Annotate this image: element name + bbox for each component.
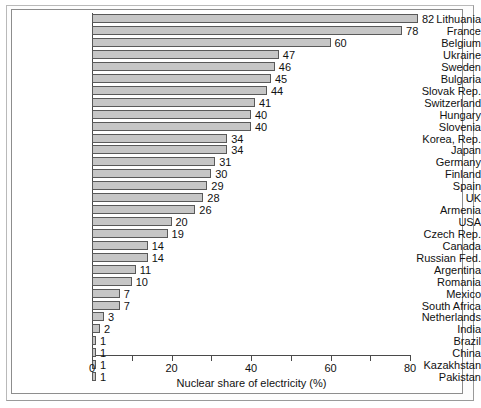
bar-row: Slovak Rep.44	[0, 85, 481, 97]
bar-row: South Africa7	[0, 300, 481, 312]
bar-row: Belgium60	[0, 37, 481, 49]
category-label: Switzerland	[393, 97, 481, 109]
bar-value-label: 40	[255, 109, 267, 121]
bar-row: India2	[0, 323, 481, 335]
x-axis-title: Nuclear share of electricity (%)	[92, 377, 411, 389]
bar	[92, 217, 172, 226]
bar	[92, 265, 136, 274]
bar	[92, 289, 120, 298]
bar-value-label: 46	[279, 61, 291, 73]
bar-value-label: 82	[422, 13, 434, 25]
x-tick-label: 60	[324, 362, 336, 374]
bar	[92, 169, 211, 178]
bar-row: UK28	[0, 192, 481, 204]
bar-row: France78	[0, 25, 481, 37]
x-tick	[410, 356, 411, 361]
category-label: UK	[393, 192, 481, 204]
bar-row: Ukraine47	[0, 49, 481, 61]
bar-row: Switzerland41	[0, 97, 481, 109]
bar	[92, 324, 100, 333]
bar	[92, 14, 418, 23]
bar	[92, 122, 251, 131]
category-label: Netherlands	[393, 311, 481, 323]
x-tick	[291, 356, 292, 361]
bar-row: Russian Fed.14	[0, 252, 481, 264]
bar-value-label: 14	[152, 252, 164, 264]
bar-row: Romania10	[0, 276, 481, 288]
bar-value-label: 45	[275, 73, 287, 85]
category-label: Ukraine	[393, 49, 481, 61]
bar-value-label: 1	[100, 335, 106, 347]
bar-row: Mexico7	[0, 288, 481, 300]
bar	[92, 205, 195, 214]
bar	[92, 98, 255, 107]
bar-row: Bulgaria45	[0, 73, 481, 85]
bar	[92, 110, 251, 119]
bar	[92, 312, 104, 321]
bar-row: Brazil1	[0, 335, 481, 347]
bar-value-label: 20	[176, 216, 188, 228]
bar	[92, 193, 203, 202]
category-label: USA	[393, 216, 481, 228]
bar-row: Czech Rep.19	[0, 228, 481, 240]
category-label: India	[393, 323, 481, 335]
bar-value-label: 7	[124, 300, 130, 312]
bar-row: Netherlands3	[0, 311, 481, 323]
x-tick	[92, 356, 93, 361]
bar-row: Armenia26	[0, 204, 481, 216]
bar	[92, 86, 267, 95]
bar-value-label: 1	[100, 347, 106, 359]
bar	[92, 336, 96, 345]
x-tick	[132, 356, 133, 361]
category-label: Brazil	[393, 335, 481, 347]
bar-value-label: 30	[215, 168, 227, 180]
bar-row: Canada14	[0, 240, 481, 252]
bar-row: China1	[0, 347, 481, 359]
category-label: South Africa	[393, 300, 481, 312]
bar-value-label: 1	[100, 359, 106, 371]
bar-value-label: 41	[259, 97, 271, 109]
bar-row: Hungary40	[0, 109, 481, 121]
x-tick	[331, 356, 332, 361]
bar-row: Germany31	[0, 156, 481, 168]
bar-row: Korea, Rep.34	[0, 133, 481, 145]
category-label: Russian Fed.	[393, 252, 481, 264]
bar	[92, 145, 227, 154]
category-label: Belgium	[393, 37, 481, 49]
category-label: China	[393, 347, 481, 359]
bar-row: Spain29	[0, 180, 481, 192]
bar-value-label: 3	[108, 311, 114, 323]
bar-row: Sweden46	[0, 61, 481, 73]
bar	[92, 50, 279, 59]
category-label: Japan	[393, 144, 481, 156]
bar	[92, 62, 275, 71]
bar-value-label: 78	[406, 25, 418, 37]
category-label: Finland	[393, 168, 481, 180]
bar-row: USA20	[0, 216, 481, 228]
category-label: Hungary	[393, 109, 481, 121]
bar-row: Finland30	[0, 168, 481, 180]
bar-value-label: 29	[211, 180, 223, 192]
x-tick	[211, 356, 212, 361]
bar	[92, 38, 331, 47]
bar-value-label: 14	[152, 240, 164, 252]
bar	[92, 134, 227, 143]
bar-value-label: 31	[219, 156, 231, 168]
category-label: Romania	[393, 276, 481, 288]
bar-row: Argentina11	[0, 264, 481, 276]
bar-value-label: 28	[207, 192, 219, 204]
category-label: Bulgaria	[393, 73, 481, 85]
category-label: Mexico	[393, 288, 481, 300]
bar	[92, 74, 271, 83]
x-tick	[370, 356, 371, 361]
bar	[92, 229, 168, 238]
bar-value-label: 34	[231, 133, 243, 145]
x-tick	[251, 356, 252, 361]
x-tick	[172, 356, 173, 361]
x-tick-label: 40	[245, 362, 257, 374]
category-label: Argentina	[393, 264, 481, 276]
bar	[92, 26, 402, 35]
bar-value-label: 10	[136, 276, 148, 288]
category-label: Armenia	[393, 204, 481, 216]
x-tick-label: 80	[404, 362, 416, 374]
